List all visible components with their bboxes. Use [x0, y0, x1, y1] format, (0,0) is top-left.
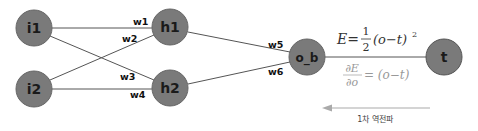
derivative-formula: ∂E ∂o = (o−t) — [343, 62, 410, 89]
deriv-num: ∂E — [345, 62, 359, 75]
node-i1: i1 — [16, 10, 52, 46]
weight-label-w3: w3 — [120, 71, 135, 82]
formula-lhs: E= — [336, 31, 359, 47]
formula-den: 2 — [363, 41, 370, 54]
node-label: o_b — [296, 51, 319, 66]
neural-network-diagram: i1 i2 h1 h2 o_b t w1 w2 w3 w4 w5 w6 E= 1… — [0, 0, 478, 131]
node-h2: h2 — [152, 70, 188, 106]
node-label: t — [441, 49, 448, 65]
node-h1: h1 — [152, 9, 188, 45]
node-i2: i2 — [16, 71, 52, 107]
backprop-caption: 1차 역전파 — [357, 114, 394, 124]
node-label: h1 — [160, 19, 180, 35]
weight-label-w1: w1 — [133, 16, 148, 27]
weight-label-w4: w4 — [130, 89, 146, 100]
node-label: i1 — [27, 20, 42, 36]
node-o_b: o_b — [289, 39, 325, 75]
error-formula: E= 1 2 (o−t) 2 — [336, 25, 417, 54]
formula-num: 1 — [363, 25, 370, 38]
weight-label-w5: w5 — [268, 39, 283, 50]
weight-label-w6: w6 — [268, 66, 284, 77]
formula-rhs: (o−t) — [373, 32, 407, 47]
arrow-left-icon — [322, 105, 332, 112]
node-label: i2 — [27, 81, 42, 97]
backprop-arrow — [322, 105, 430, 112]
node-label: h2 — [160, 80, 180, 96]
node-t: t — [426, 39, 462, 75]
weight-label-w2: w2 — [122, 33, 137, 44]
deriv-rhs: = (o−t) — [364, 68, 410, 82]
deriv-den: ∂o — [346, 76, 359, 89]
formula-exp: 2 — [412, 30, 417, 39]
